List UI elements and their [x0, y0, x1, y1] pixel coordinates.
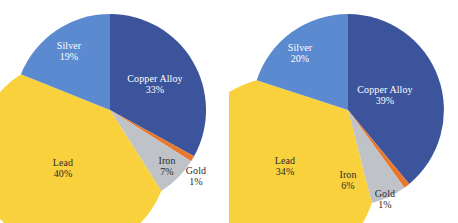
pie-chart-panel-left: Copper Alloy 33% Gold 1% Iron 7% Lead 40… — [0, 0, 229, 223]
pie-chart-panel-right: Copper Alloy 39% Gold 1% Iron 6% Lead 34… — [229, 0, 458, 223]
pie-right-svg — [229, 0, 458, 223]
pie-left-svg — [0, 0, 229, 223]
pie-chart-figure: Copper Alloy 33% Gold 1% Iron 7% Lead 40… — [0, 0, 458, 223]
